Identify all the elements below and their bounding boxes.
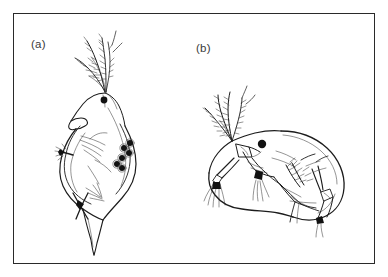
figure-root: (a) (b) xyxy=(0,0,388,277)
figure-border xyxy=(13,13,375,264)
panel-label-a: (a) xyxy=(31,38,46,50)
panel-label-b: (b) xyxy=(196,42,211,54)
